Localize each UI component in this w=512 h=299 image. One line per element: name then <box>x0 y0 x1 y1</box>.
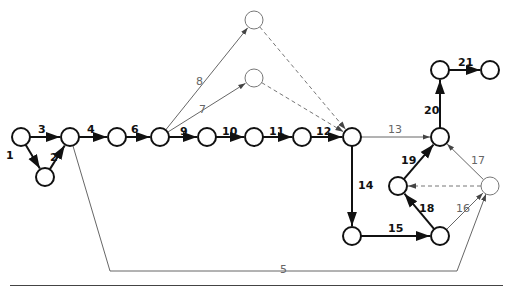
node-M <box>389 177 407 195</box>
edge-8 <box>166 28 248 130</box>
network-diagram: 123469101112871314151617181920215 <box>0 0 512 299</box>
edge-label-17: 17 <box>471 155 485 166</box>
edge-label-7: 7 <box>199 104 206 115</box>
edge-label-11: 11 <box>269 126 284 137</box>
node-C <box>61 128 79 146</box>
edge-label-9: 9 <box>180 126 188 137</box>
node-J <box>431 128 449 146</box>
node-B <box>36 168 54 186</box>
edge-label-16: 16 <box>456 203 470 214</box>
edge-label-6: 6 <box>131 124 139 135</box>
node-I <box>343 128 361 146</box>
edge-label-8: 8 <box>196 76 203 87</box>
edge-label-4: 4 <box>87 124 95 135</box>
node-H <box>293 128 311 146</box>
node-T1 <box>245 11 263 29</box>
node-G <box>245 128 263 146</box>
edge-label-12: 12 <box>316 126 331 137</box>
bottom-rule <box>10 285 503 286</box>
edge-label-13: 13 <box>388 124 402 135</box>
node-N <box>481 177 499 195</box>
node-K <box>431 61 449 79</box>
edge-label-5: 5 <box>280 264 287 275</box>
node-P <box>431 227 449 245</box>
edge-1 <box>26 145 40 169</box>
edge-label-10: 10 <box>222 126 237 137</box>
edge-label-14: 14 <box>358 180 373 191</box>
network-diagram-svg <box>0 0 512 299</box>
edge-label-18: 18 <box>419 203 434 214</box>
node-A <box>12 128 30 146</box>
edge-label-2: 2 <box>50 152 58 163</box>
edge-label-21: 21 <box>458 57 473 68</box>
edge-label-19: 19 <box>401 155 416 166</box>
node-F <box>198 128 216 146</box>
node-D <box>108 128 126 146</box>
edge-label-1: 1 <box>6 150 14 161</box>
node-T2 <box>245 69 263 87</box>
node-O <box>343 227 361 245</box>
edge-label-15: 15 <box>388 223 403 234</box>
node-L <box>481 61 499 79</box>
edge-label-20: 20 <box>424 105 439 116</box>
edge-T1-I-dummy <box>260 27 346 129</box>
node-E <box>151 128 169 146</box>
edge-label-3: 3 <box>38 124 46 135</box>
